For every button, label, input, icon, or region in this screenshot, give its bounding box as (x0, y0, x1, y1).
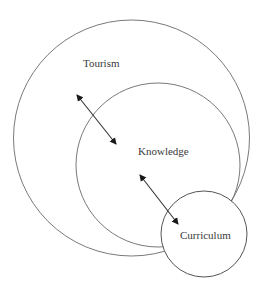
knowledge-curriculum-arrow-icon (140, 175, 178, 224)
tourism-label: Tourism (83, 57, 120, 69)
curriculum-label: Curriculum (180, 229, 231, 241)
nested-circles-diagram: Tourism Knowledge Curriculum (0, 0, 262, 290)
tourism-knowledge-arrow-icon (77, 95, 116, 144)
knowledge-label: Knowledge (138, 145, 189, 157)
